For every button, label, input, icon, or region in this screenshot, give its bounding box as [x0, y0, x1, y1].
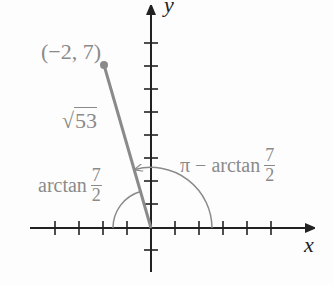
segment-length-label: √53: [62, 110, 97, 132]
x-axis-label: x: [304, 234, 314, 256]
y-axis: [144, 6, 158, 272]
sqrt-symbol: √: [62, 108, 74, 133]
y-axis-label: y: [164, 0, 174, 16]
radicand: 53: [74, 107, 97, 133]
fraction-denominator: 2: [265, 166, 274, 185]
point-label: (−2, 7): [41, 41, 101, 63]
fraction-numerator: 7: [91, 166, 102, 186]
radius-segment: [104, 65, 151, 228]
fraction-numerator: 7: [264, 146, 275, 166]
angle-right-label: π − arctan 7 2: [180, 146, 275, 185]
angle-left-fraction: 7 2: [91, 166, 102, 205]
point-marker: [100, 61, 108, 69]
fraction-denominator: 2: [92, 186, 101, 205]
angle-left-prefix: arctan: [38, 175, 87, 195]
x-axis: [30, 221, 314, 235]
diagram-canvas: (−2, 7) √53 arctan 7 2 π − arctan 7 2 x …: [0, 0, 333, 285]
angle-right-prefix: π − arctan: [180, 155, 260, 175]
angle-right-fraction: 7 2: [264, 146, 275, 185]
angle-left-label: arctan 7 2: [38, 166, 102, 205]
